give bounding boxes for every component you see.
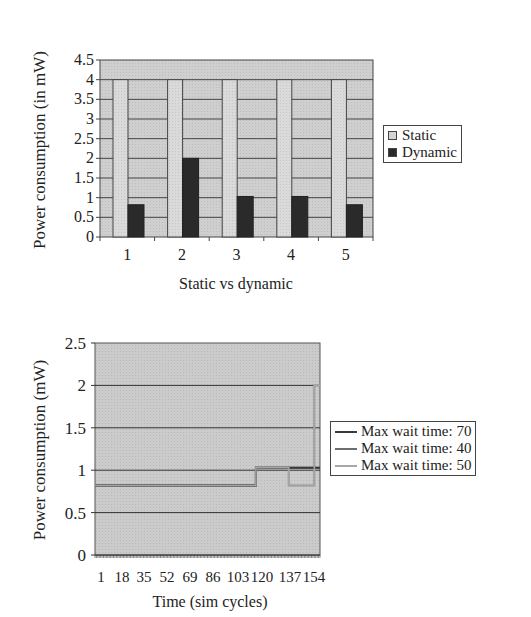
line-swatch-icon (335, 465, 357, 467)
bar-static (113, 80, 128, 237)
y-tick-label: 3.5 (74, 90, 94, 107)
bar-dynamic (292, 196, 308, 237)
x-tick-label: 120 (251, 569, 274, 585)
legend-item-wait-50: Max wait time: 50 (335, 457, 471, 474)
x-tick-label: 86 (206, 569, 222, 585)
y-tick-label: 0 (78, 546, 87, 565)
legend-item-dynamic: Dynamic (388, 144, 457, 161)
bar-dynamic (346, 205, 362, 237)
bar-dynamic (128, 205, 144, 237)
legend-item-wait-70: Max wait time: 70 (335, 423, 471, 440)
line-swatch-icon (335, 431, 357, 433)
x-tick-label: 1 (97, 569, 105, 585)
bar-static (277, 80, 292, 237)
y-tick-label: 1.5 (65, 419, 86, 438)
y-tick-label: 1.5 (74, 169, 94, 186)
legend-item-wait-40: Max wait time: 40 (335, 440, 471, 457)
x-tick-label: 18 (115, 569, 130, 585)
bar-plot-area: 00.511.522.533.544.512345 (74, 51, 373, 263)
y-tick-label: 0.5 (74, 208, 94, 225)
x-tick-label: 69 (183, 569, 198, 585)
x-tick-label: 4 (287, 246, 295, 263)
x-tick-label: 3 (233, 246, 241, 263)
bar-static (331, 80, 346, 237)
bar-static (222, 80, 237, 237)
y-tick-label: 2.5 (74, 130, 94, 147)
x-tick-label: 137 (279, 569, 302, 585)
bar-legend: Static Dynamic (383, 125, 462, 163)
dynamic-swatch-icon (388, 148, 397, 157)
x-tick-label: 154 (303, 569, 326, 585)
static-swatch-icon (388, 131, 397, 140)
bar-static (168, 80, 183, 237)
line-y-axis-label: Power consumption (mW) (30, 360, 49, 540)
x-tick-label: 103 (227, 569, 250, 585)
y-tick-label: 1 (86, 189, 94, 206)
legend-item-static: Static (388, 127, 457, 144)
x-tick-label: 35 (137, 569, 152, 585)
y-tick-label: 3 (86, 110, 94, 127)
line-plot-area: 00.511.522.511835526986103120137154 (65, 334, 326, 585)
line-legend: Max wait time: 70 Max wait time: 40 Max … (330, 421, 476, 476)
line-swatch-icon (335, 448, 357, 450)
y-tick-label: 0 (86, 228, 94, 245)
line-x-axis-label: Time (sim cycles) (153, 593, 268, 611)
y-tick-label: 1 (78, 461, 87, 480)
y-tick-label: 0.5 (65, 504, 86, 523)
bar-dynamic (237, 196, 253, 237)
bar-x-axis-label: Static vs dynamic (179, 275, 293, 293)
bar-y-axis-label: Power consumption (in mW) (30, 51, 49, 249)
x-tick-label: 1 (123, 246, 131, 263)
y-tick-label: 4.5 (74, 51, 94, 68)
y-tick-label: 2 (86, 149, 94, 166)
y-tick-label: 4 (86, 71, 94, 88)
x-tick-label: 52 (160, 569, 175, 585)
bar-dynamic (183, 158, 199, 237)
y-tick-label: 2.5 (65, 334, 86, 353)
x-tick-label: 2 (178, 246, 186, 263)
x-tick-label: 5 (342, 246, 350, 263)
y-tick-label: 2 (78, 376, 87, 395)
